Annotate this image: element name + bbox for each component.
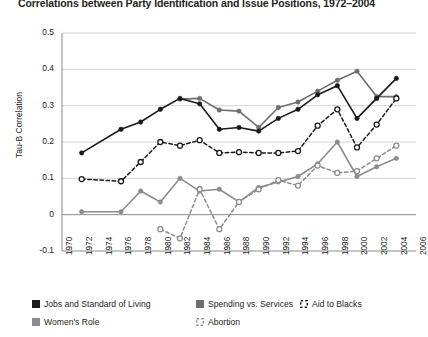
y-tick-label: 0.5 <box>28 27 54 37</box>
legend-swatch-open-icon <box>300 300 308 308</box>
x-tick-label: 1978 <box>144 237 153 255</box>
y-tick-label: 0.2 <box>28 136 54 146</box>
legend-item-label: Spending vs. Services <box>208 299 293 309</box>
legend-item[interactable]: Abortion <box>196 317 240 327</box>
x-tick-label: 1974 <box>105 237 114 255</box>
x-tick-label: 1990 <box>262 237 271 255</box>
x-tick-label: 1970 <box>65 237 74 255</box>
legend-item[interactable]: Jobs and Standard of Living <box>32 299 151 309</box>
legend-swatch-icon <box>32 318 40 326</box>
chart-legend: Jobs and Standard of LivingSpending vs. … <box>0 297 421 337</box>
legend-item-label: Jobs and Standard of Living <box>44 299 151 309</box>
legend-item[interactable]: Women's Role <box>32 317 99 327</box>
legend-item-label: Abortion <box>208 317 240 327</box>
x-tick-label: 2000 <box>360 237 369 255</box>
x-tick-label: 1984 <box>203 237 212 255</box>
x-tick-label: 1972 <box>85 237 94 255</box>
x-tick-label: 1976 <box>124 237 133 255</box>
x-tick-label: 1996 <box>321 237 330 255</box>
legend-item[interactable]: Spending vs. Services <box>196 299 293 309</box>
legend-item-label: Women's Role <box>44 317 99 327</box>
y-tick-label: 0.3 <box>28 100 54 110</box>
y-tick-label: 0 <box>28 209 54 219</box>
x-tick-label: 2006 <box>419 237 428 255</box>
series-abortion <box>158 143 399 241</box>
legend-swatch-icon <box>32 300 40 308</box>
legend-item[interactable]: Aid to Blacks <box>300 299 362 309</box>
y-tick-label: 0.1 <box>28 172 54 182</box>
x-tick-label: 2002 <box>380 237 389 255</box>
x-tick-label: 1994 <box>301 237 310 255</box>
x-tick-label: 2004 <box>400 237 409 255</box>
x-tick-label: 1992 <box>282 237 291 255</box>
x-tick-label: 1986 <box>223 237 232 255</box>
x-tick-label: 1988 <box>242 237 251 255</box>
legend-swatch-icon <box>196 300 204 308</box>
y-tick-label: -0.1 <box>28 245 54 255</box>
series-jobs-and-standard-of-living <box>79 76 398 155</box>
series-spending-vs-services <box>178 69 399 130</box>
legend-item-label: Aid to Blacks <box>312 299 362 309</box>
y-tick-label: 0.4 <box>28 63 54 73</box>
legend-swatch-open-icon <box>196 318 204 326</box>
x-tick-label: 1980 <box>164 237 173 255</box>
plot-area: Tau-B Correlation 0.50.40.30.20.10-0.1 1… <box>0 0 421 295</box>
x-tick-label: 1998 <box>341 237 350 255</box>
y-axis-label: Tau-B Correlation <box>14 80 24 170</box>
x-tick-label: 1982 <box>183 237 192 255</box>
